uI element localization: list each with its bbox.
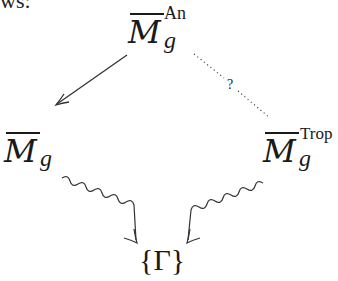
squiggly-arrow-left-to-bottom <box>62 177 137 243</box>
squiggly-arrow-right-to-bottom <box>187 182 263 243</box>
arrow-top-to-left <box>56 55 127 105</box>
diagram-edges <box>0 0 338 281</box>
dotted-edge-top-to-right <box>194 54 270 118</box>
